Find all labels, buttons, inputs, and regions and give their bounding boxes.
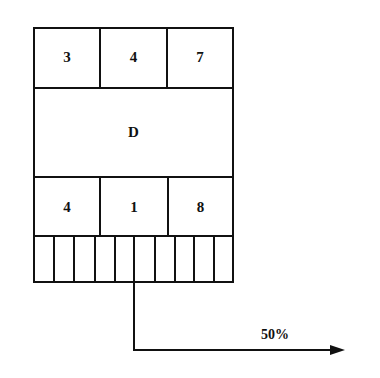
middle-label: D bbox=[34, 124, 233, 141]
arrow-head-icon bbox=[330, 345, 345, 355]
arrow-label: 50% bbox=[255, 327, 295, 343]
cell-bottom-3: 8 bbox=[168, 199, 233, 216]
cell-top-1: 3 bbox=[34, 49, 100, 66]
cell-bottom-1: 4 bbox=[34, 199, 100, 216]
cell-bottom-2: 1 bbox=[100, 199, 168, 216]
flow-arrow-line bbox=[134, 282, 335, 350]
cell-top-2: 4 bbox=[100, 49, 167, 66]
cell-top-3: 7 bbox=[167, 49, 233, 66]
